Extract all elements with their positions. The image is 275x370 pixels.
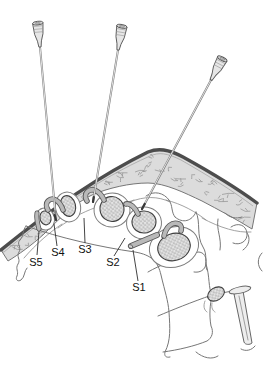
- transverse-process-rod: [229, 285, 255, 351]
- needle-hub: [113, 24, 127, 51]
- paren-mark: [258, 253, 262, 271]
- needle-hub: [32, 21, 45, 48]
- illustration-canvas: S5 S4 S3 S2 S1: [0, 0, 275, 370]
- rod-body: [234, 291, 252, 344]
- sacral-block-figure: S5 S4 S3 S2 S1: [0, 0, 275, 370]
- needle-tip: [93, 197, 94, 202]
- s1-leader: [133, 250, 138, 281]
- below-body-curve: [196, 352, 218, 358]
- label-s1: S1: [132, 281, 145, 293]
- oval-rim-lines: [204, 301, 215, 312]
- needle-shaft-highlight: [40, 47, 55, 210]
- s2-leader: [114, 238, 125, 256]
- label-s2: S2: [106, 256, 119, 268]
- needle-s4: [32, 21, 56, 220]
- intervertebral-foramen-oval: [205, 284, 227, 304]
- needle-tip: [55, 215, 56, 220]
- s3-leader: [84, 218, 85, 243]
- label-s3: S3: [78, 243, 91, 255]
- rod-base-curve: [241, 346, 255, 350]
- needle-hub: [206, 55, 227, 83]
- label-s5: S5: [29, 256, 42, 268]
- sacrum-anterior-border: [26, 226, 170, 357]
- label-s4: S4: [51, 246, 64, 258]
